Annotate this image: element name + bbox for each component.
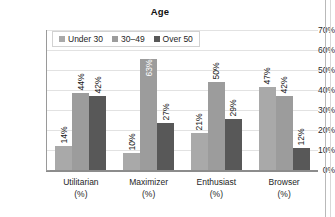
- chart-legend: Under 3030–49Over 50: [52, 31, 200, 47]
- x-axis-category-label: Enthusiast(%): [183, 176, 251, 200]
- bar-slot: 42%: [276, 30, 293, 170]
- bar-slot: 10%: [123, 30, 140, 170]
- bar-slot: 47%: [259, 30, 276, 170]
- bar-slot: 63%: [140, 30, 157, 170]
- bar[interactable]: 63%: [140, 59, 157, 170]
- category-name: Maximizer: [129, 177, 168, 187]
- x-axis-category-label: Utilitarian(%): [47, 176, 115, 200]
- bar-group: 10%63%27%: [115, 30, 183, 170]
- legend-label: Over 50: [163, 34, 193, 44]
- bar-value-label: 42%: [93, 76, 103, 93]
- category-unit: (%): [183, 188, 251, 200]
- category-name: Enthusiast: [197, 177, 237, 187]
- legend-item[interactable]: Under 30: [59, 34, 103, 44]
- bar-value-label: 29%: [228, 99, 238, 116]
- bar-group: 21%50%29%: [183, 30, 251, 170]
- bar-slot: 50%: [208, 30, 225, 170]
- category-name: Utilitarian: [63, 177, 98, 187]
- legend-swatch-icon: [154, 36, 160, 42]
- category-name: Browser: [269, 177, 300, 187]
- bar[interactable]: 47%: [259, 87, 276, 170]
- bar-value-label: 50%: [211, 62, 221, 79]
- bar-slot: 14%: [55, 30, 72, 170]
- category-unit: (%): [250, 188, 318, 200]
- plot-area: 14%44%42%10%63%27%21%50%29%47%42%12%: [47, 30, 318, 170]
- x-axis-category-label: Maximizer(%): [115, 176, 183, 200]
- bar-slot: 44%: [72, 30, 89, 170]
- bar-slot: 42%: [89, 30, 106, 170]
- bar-slot: 27%: [157, 30, 174, 170]
- bar-value-label: 44%: [76, 73, 86, 90]
- bar-slot: 29%: [225, 30, 242, 170]
- category-unit: (%): [115, 188, 183, 200]
- legend-swatch-icon: [59, 36, 65, 42]
- chart-figure: Age 70%60%50%40%30%20%10%0% 14%44%42%10%…: [0, 0, 335, 217]
- bar-slot: 21%: [191, 30, 208, 170]
- bar[interactable]: 50%: [208, 82, 225, 170]
- bar-value-label: 10%: [127, 133, 137, 150]
- bar-value-label: 47%: [262, 67, 272, 84]
- bar[interactable]: 14%: [55, 146, 72, 170]
- bar[interactable]: 42%: [89, 96, 106, 170]
- y-axis-tick-mark: [46, 170, 50, 171]
- bar[interactable]: 42%: [276, 96, 293, 170]
- legend-item[interactable]: Over 50: [154, 34, 193, 44]
- bar-group: 14%44%42%: [47, 30, 115, 170]
- bar[interactable]: 29%: [225, 119, 242, 170]
- legend-label: 30–49: [121, 34, 145, 44]
- bar[interactable]: 10%: [123, 153, 140, 170]
- bar-value-label: 42%: [279, 76, 289, 93]
- bar[interactable]: 27%: [157, 123, 174, 170]
- x-axis-line: [46, 170, 318, 172]
- bar-slot: 12%: [293, 30, 310, 170]
- legend-item[interactable]: 30–49: [112, 34, 145, 44]
- chart-title: Age: [0, 6, 320, 17]
- legend-label: Under 30: [68, 34, 103, 44]
- page-edge-line: [325, 0, 326, 217]
- bar-value-label: 27%: [161, 103, 171, 120]
- legend-swatch-icon: [112, 36, 118, 42]
- page-edge-line-secondary: [330, 0, 331, 217]
- bar-value-label: 12%: [296, 128, 306, 145]
- bar[interactable]: 44%: [72, 93, 89, 170]
- category-unit: (%): [47, 188, 115, 200]
- bar[interactable]: 12%: [293, 148, 310, 170]
- bar-group: 47%42%12%: [250, 30, 318, 170]
- x-axis-category-label: Browser(%): [250, 176, 318, 200]
- bar-value-label: 63%: [144, 59, 154, 76]
- bar-value-label: 21%: [194, 113, 204, 130]
- bar-value-label: 14%: [59, 126, 69, 143]
- bar[interactable]: 21%: [191, 133, 208, 170]
